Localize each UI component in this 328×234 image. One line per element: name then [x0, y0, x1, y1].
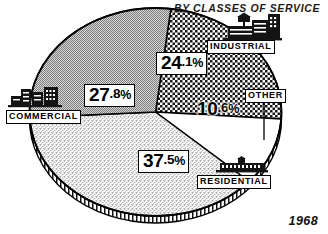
residential-value-int: 37: [143, 150, 164, 171]
industrial-value-dec: .1: [182, 54, 193, 69]
commercial-value-dec: .8: [110, 86, 121, 101]
commercial-value-box: 27.8%: [84, 84, 135, 107]
chart-year: 1968: [289, 214, 318, 228]
other-value-text: 10.6%: [197, 98, 239, 120]
houses-icon: [216, 156, 270, 176]
industrial-value-box: 24.1%: [156, 52, 207, 75]
industrial-value-int: 24: [161, 52, 182, 73]
commercial-value-int: 27: [89, 84, 110, 105]
other-value-dec: .6: [218, 100, 229, 115]
commercial-percent-sign: %: [120, 88, 131, 102]
factory-icon: [224, 12, 286, 42]
commercial-label-plate: COMMERCIAL: [6, 110, 81, 124]
city-skyline-icon: [8, 84, 66, 110]
industrial-label-plate: INDUSTRIAL: [207, 40, 275, 54]
other-percent-sign: %: [228, 102, 239, 116]
other-value-int: 10: [197, 98, 218, 119]
other-label-plate: OTHER: [245, 89, 286, 103]
residential-value-dec: .5: [164, 152, 175, 167]
residential-value-box: 37.5%: [138, 150, 189, 173]
residential-percent-sign: %: [174, 154, 185, 168]
residential-label-plate: RESIDENTIAL: [197, 175, 271, 189]
chart-canvas: BY CLASSES OF SERVICE 1968 INDUSTRIAL 24…: [0, 0, 328, 234]
industrial-percent-sign: %: [192, 56, 203, 70]
